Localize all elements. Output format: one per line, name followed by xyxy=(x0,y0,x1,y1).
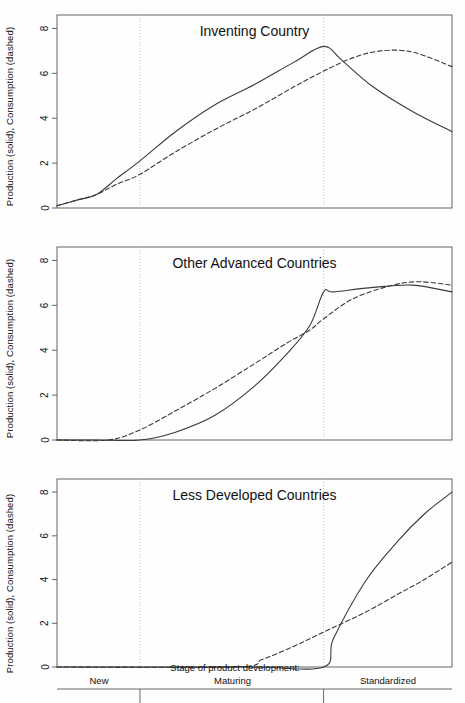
y-tick-label: 2 xyxy=(40,392,51,398)
plot-frame xyxy=(57,247,452,440)
y-tick-label: 4 xyxy=(40,576,51,582)
production-line xyxy=(57,46,452,205)
y-tick-label: 6 xyxy=(40,70,51,76)
panel-title-0: Inventing Country xyxy=(57,23,452,39)
x-axis-area: Stage of product development: New Maturi… xyxy=(0,659,465,703)
y-tick-label: 8 xyxy=(40,489,51,495)
panel-inventing-country: Production (solid), Consumption (dashed)… xyxy=(0,0,465,232)
panel-less-developed-countries: Production (solid), Consumption (dashed)… xyxy=(0,464,465,703)
y-tick-label: 4 xyxy=(40,347,51,353)
stage-label-maturing: Maturing xyxy=(141,675,324,686)
y-tick-label: 6 xyxy=(40,533,51,539)
y-tick-label: 0 xyxy=(40,437,51,443)
panel-title-2: Less Developed Countries xyxy=(57,487,452,503)
stage-label-standardized: Standardized xyxy=(324,675,452,686)
consumption-line xyxy=(57,562,452,667)
x-axis-title: Stage of product development: xyxy=(145,662,325,673)
figure-root: Production (solid), Consumption (dashed)… xyxy=(0,0,465,703)
y-tick-label: 2 xyxy=(40,620,51,626)
consumption-line xyxy=(57,50,452,206)
panel-other-advanced-countries: Production (solid), Consumption (dashed)… xyxy=(0,232,465,464)
y-tick-label: 4 xyxy=(40,115,51,121)
y-tick-label: 2 xyxy=(40,160,51,166)
y-tick-label: 6 xyxy=(40,302,51,308)
y-tick-label: 0 xyxy=(40,205,51,211)
y-tick-label: 8 xyxy=(40,257,51,263)
plot-frame xyxy=(57,479,452,667)
consumption-line xyxy=(57,282,452,441)
production-line xyxy=(57,285,452,441)
production-line xyxy=(57,492,452,669)
panel-title-1: Other Advanced Countries xyxy=(57,255,452,271)
y-tick-label: 8 xyxy=(40,25,51,31)
stage-label-new: New xyxy=(57,675,141,686)
